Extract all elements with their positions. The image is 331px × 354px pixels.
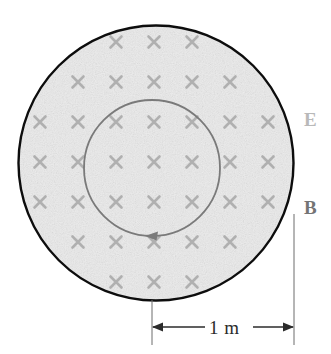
figure-canvas: [0, 0, 331, 354]
dimension-value-label: 1 m: [209, 318, 240, 337]
dimension-arrowhead-right: [283, 323, 294, 332]
electric-field-label: E: [304, 110, 317, 129]
magnetic-field-label: B: [304, 198, 317, 217]
dimension-arrowhead-left: [152, 323, 163, 332]
physics-figure: E B 1 m: [0, 0, 331, 354]
